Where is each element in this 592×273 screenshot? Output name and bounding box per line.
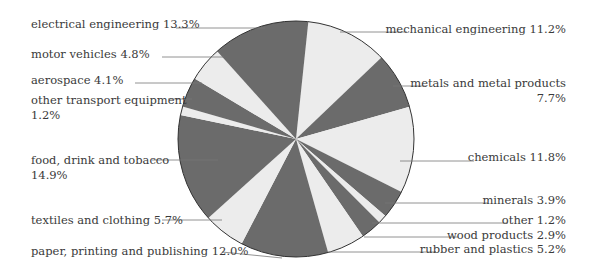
label-wood-products: wood products 2.9%	[447, 228, 566, 243]
label-text: mechanical engineering 11.2%	[385, 22, 566, 36]
label-text: paper, printing and publishing 12.0%	[31, 244, 248, 258]
label-electrical-engineering: electrical engineering 13.3%	[31, 17, 200, 32]
label-text: motor vehicles 4.8%	[31, 47, 150, 61]
label-aerospace: aerospace 4.1%	[31, 73, 123, 88]
pie-slices	[178, 21, 414, 257]
label-textiles-clothing: textiles and clothing 5.7%	[31, 213, 183, 228]
label-rubber-plastics: rubber and plastics 5.2%	[420, 242, 566, 257]
label-text: food, drink and tobacco	[31, 153, 169, 168]
label-text: textiles and clothing 5.7%	[31, 213, 183, 227]
label-text: electrical engineering 13.3%	[31, 17, 200, 31]
label-text: aerospace 4.1%	[31, 73, 123, 87]
label-mechanical-engineering: mechanical engineering 11.2%	[385, 22, 566, 37]
label-metals: metals and metal products 7.7%	[410, 76, 566, 106]
label-value: 7.7%	[410, 91, 566, 106]
label-text: other transport equipment	[31, 93, 187, 108]
label-text: other 1.2%	[502, 213, 566, 227]
label-food-drink-tobacco: food, drink and tobacco 14.9%	[31, 153, 169, 183]
label-text: minerals 3.9%	[482, 193, 566, 207]
label-text: chemicals 11.8%	[468, 150, 566, 164]
label-text: wood products 2.9%	[447, 228, 566, 242]
label-other-transport-equipment: other transport equipment 1.2%	[31, 93, 187, 123]
label-value: 14.9%	[31, 168, 169, 183]
label-text: rubber and plastics 5.2%	[420, 242, 566, 256]
label-chemicals: chemicals 11.8%	[468, 150, 566, 165]
label-other: other 1.2%	[502, 213, 566, 228]
label-value: 1.2%	[31, 108, 187, 123]
label-minerals: minerals 3.9%	[482, 193, 566, 208]
label-text: metals and metal products	[410, 76, 566, 91]
label-motor-vehicles: motor vehicles 4.8%	[31, 47, 150, 62]
label-paper-printing-publishing: paper, printing and publishing 12.0%	[31, 244, 248, 259]
